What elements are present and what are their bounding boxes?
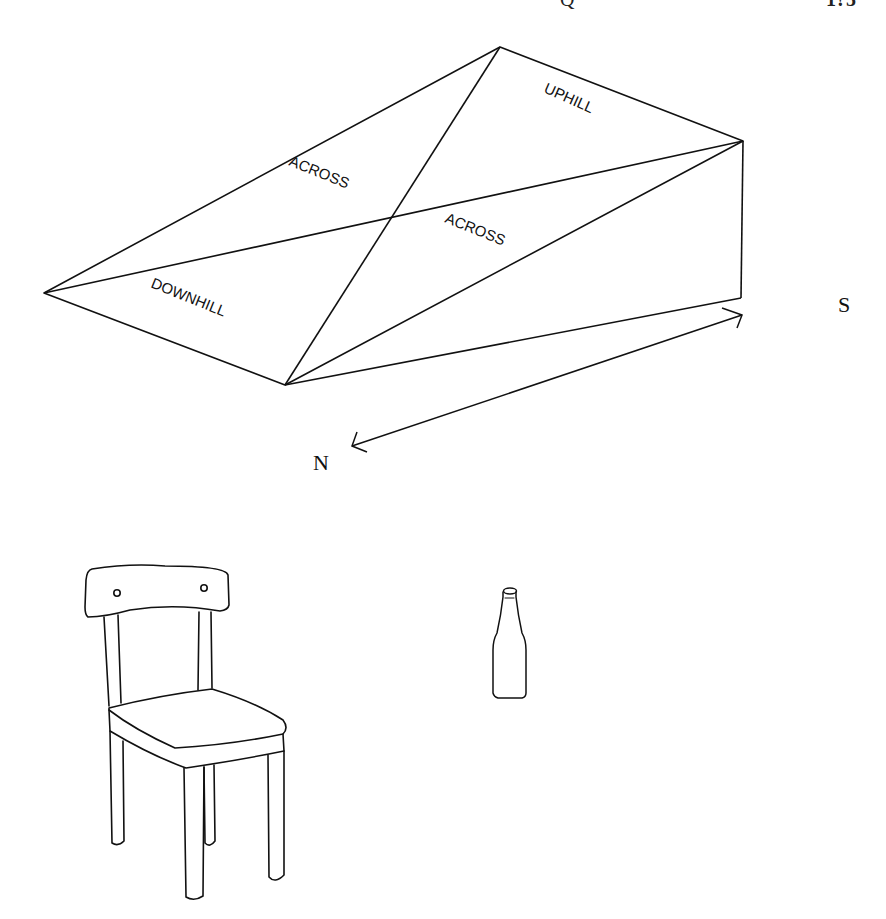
bottle-cap [504, 588, 517, 594]
slope-face-outline [44, 47, 743, 385]
chair-back-post-left [104, 615, 121, 706]
chair-back-post-right [198, 612, 212, 690]
chair-leg-back-left [110, 731, 124, 845]
compass-arrow [352, 308, 742, 452]
chair-leg-front-right [268, 751, 284, 880]
chair-backrest [85, 565, 229, 617]
chair-icon [85, 565, 286, 899]
chair-leg-back-right [204, 765, 215, 845]
bottle-body [493, 592, 526, 698]
base-edge [285, 298, 741, 385]
diagonal-left-to-right [44, 141, 743, 293]
compass-north-label: N [313, 450, 329, 475]
label-across-top: ACROSS [287, 152, 352, 191]
chair-backrest-hole-right [201, 585, 207, 591]
label-uphill: UPHILL [542, 79, 597, 116]
chair-seat-top [109, 689, 286, 748]
label-downhill: DOWNHILL [149, 274, 229, 319]
ramp-wedge [44, 47, 743, 385]
label-across-bottom: ACROSS [443, 209, 508, 248]
compass-south-label: S [838, 292, 850, 317]
chair-leg-front-left [184, 767, 204, 899]
chair-backrest-hole-left [114, 590, 120, 596]
vertical-edge [741, 141, 743, 298]
ramp-figure: UPHILL ACROSS ACROSS DOWNHILL S N [0, 0, 886, 919]
bottle-icon [493, 588, 526, 698]
